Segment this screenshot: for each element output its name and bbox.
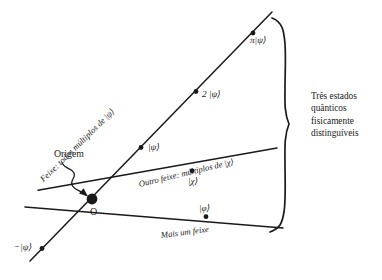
point-neg-psi-label: −|ψ⟩ (14, 242, 32, 252)
origin-point-label: O (90, 206, 97, 217)
dot-phi (204, 214, 209, 219)
point-chi-label: |χ⟩ (188, 176, 198, 186)
point-psi-label: |ψ⟩ (148, 142, 160, 152)
brace-caption-line-3: fisicamente (311, 115, 359, 127)
dot-2-psi (194, 89, 199, 94)
grouping-brace (270, 18, 289, 232)
dot-psi (139, 145, 144, 150)
brace-caption: Três estados quânticos fisicamente disti… (311, 90, 359, 139)
point-pi-psi-label: π|ψ⟩ (250, 35, 266, 45)
diagram-canvas (0, 0, 382, 280)
brace-caption-line-1: Três estados (311, 90, 359, 102)
point-2-psi-label: 2 |ψ⟩ (202, 89, 221, 99)
phi-ray-line (25, 207, 283, 228)
dot-neg-psi (40, 246, 45, 251)
origin-arrow-head (79, 188, 88, 196)
origin-label: Origem (54, 149, 84, 160)
brace-caption-line-4: distinguíveis (311, 127, 359, 139)
brace-caption-line-2: quânticos (311, 102, 359, 114)
point-phi-label: |φ⟩ (199, 203, 210, 213)
origin-dot (87, 194, 98, 205)
quantum-ray-diagram: Feixe: todos múltiplos de |ψ⟩ Outro feix… (0, 0, 382, 280)
